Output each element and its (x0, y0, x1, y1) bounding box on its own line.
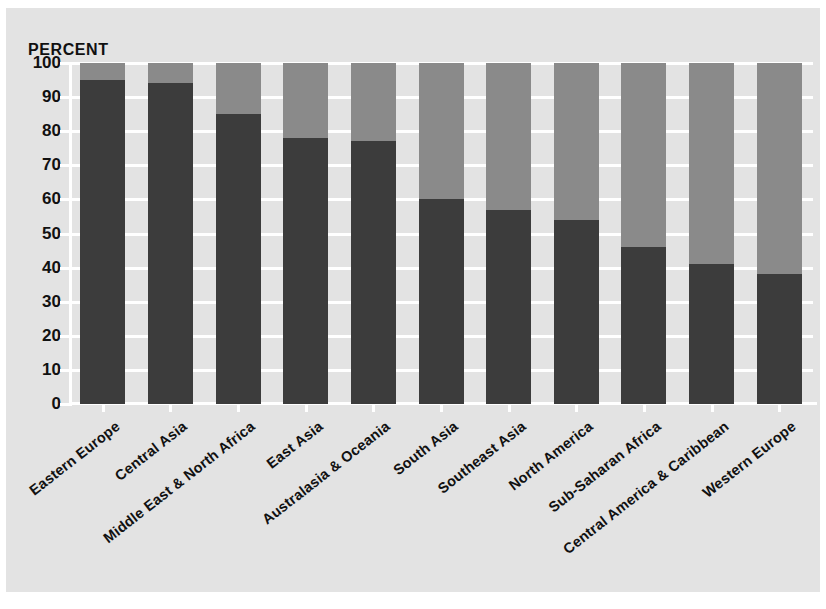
bar-segment-lower[interactable] (689, 264, 734, 404)
x-axis-tick-label: East Asia (263, 418, 325, 472)
y-axis-tick (60, 267, 69, 270)
bar-segment-lower[interactable] (216, 114, 261, 404)
x-axis-tick-label: Australasia & Oceania (259, 418, 393, 527)
y-axis-tick (60, 198, 69, 201)
bar-segment-upper[interactable] (351, 63, 396, 141)
x-axis-tick-label: South Asia (390, 418, 461, 478)
y-axis-tick (60, 369, 69, 372)
y-axis-tick-label: 40 (42, 258, 61, 278)
bar-segment-lower[interactable] (486, 210, 531, 404)
chart-figure: PERCENT 1009080706050403020100 Eastern E… (6, 8, 820, 592)
bar-segment-lower[interactable] (283, 138, 328, 404)
bar-segment-lower[interactable] (621, 247, 666, 404)
bar-segment-lower[interactable] (148, 83, 193, 404)
y-axis-tick-label: 20 (42, 326, 61, 346)
y-axis-tick-label: 100 (33, 53, 61, 73)
x-axis-tick-label: Sub-Saharan Africa (545, 418, 663, 515)
y-axis-tick-label: 70 (42, 155, 61, 175)
bar-segment-upper[interactable] (148, 63, 193, 83)
bar-segment-lower[interactable] (80, 80, 125, 404)
y-axis-tick (60, 164, 69, 167)
bar-group[interactable] (80, 63, 125, 404)
bar-group[interactable] (621, 63, 666, 404)
y-axis-tick (60, 130, 69, 133)
bar-segment-upper[interactable] (621, 63, 666, 247)
y-axis-tick-label: 60 (42, 189, 61, 209)
y-axis-tick-label: 90 (42, 87, 61, 107)
bar-segment-upper[interactable] (486, 63, 531, 210)
bar-segment-upper[interactable] (419, 63, 464, 199)
bar-segment-upper[interactable] (554, 63, 599, 220)
bar-segment-upper[interactable] (283, 63, 328, 138)
y-axis-tick-label: 50 (42, 224, 61, 244)
bar-group[interactable] (757, 63, 802, 404)
bar-group[interactable] (554, 63, 599, 404)
y-axis-tick (60, 96, 69, 99)
bar-segment-lower[interactable] (757, 274, 802, 404)
bar-group[interactable] (689, 63, 734, 404)
bar-segment-upper[interactable] (216, 63, 261, 114)
bar-segment-lower[interactable] (554, 220, 599, 404)
y-axis-tick-label: 80 (42, 121, 61, 141)
y-axis-tick (60, 62, 69, 65)
bar-segment-lower[interactable] (351, 141, 396, 404)
y-axis-tick (60, 403, 69, 406)
bar-group[interactable] (486, 63, 531, 404)
x-axis-tick-labels: Eastern EuropeCentral AsiaMiddle East & … (69, 406, 817, 586)
bar-segment-upper[interactable] (689, 63, 734, 264)
bar-group[interactable] (148, 63, 193, 404)
bar-group[interactable] (283, 63, 328, 404)
y-axis-tick (60, 233, 69, 236)
y-axis-tick (60, 301, 69, 304)
bar-group[interactable] (216, 63, 261, 404)
x-axis-tick-label: Eastern Europe (26, 418, 123, 498)
y-axis-tick-label: 10 (42, 360, 61, 380)
bar-group[interactable] (419, 63, 464, 404)
bar-segment-upper[interactable] (757, 63, 802, 274)
y-axis-tick-label: 30 (42, 292, 61, 312)
bar-segment-lower[interactable] (419, 199, 464, 404)
bar-group[interactable] (351, 63, 396, 404)
bar-segment-upper[interactable] (80, 63, 125, 80)
y-axis-tick (60, 335, 69, 338)
plot-area (69, 63, 813, 404)
y-axis-tick-labels: 1009080706050403020100 (12, 63, 61, 404)
